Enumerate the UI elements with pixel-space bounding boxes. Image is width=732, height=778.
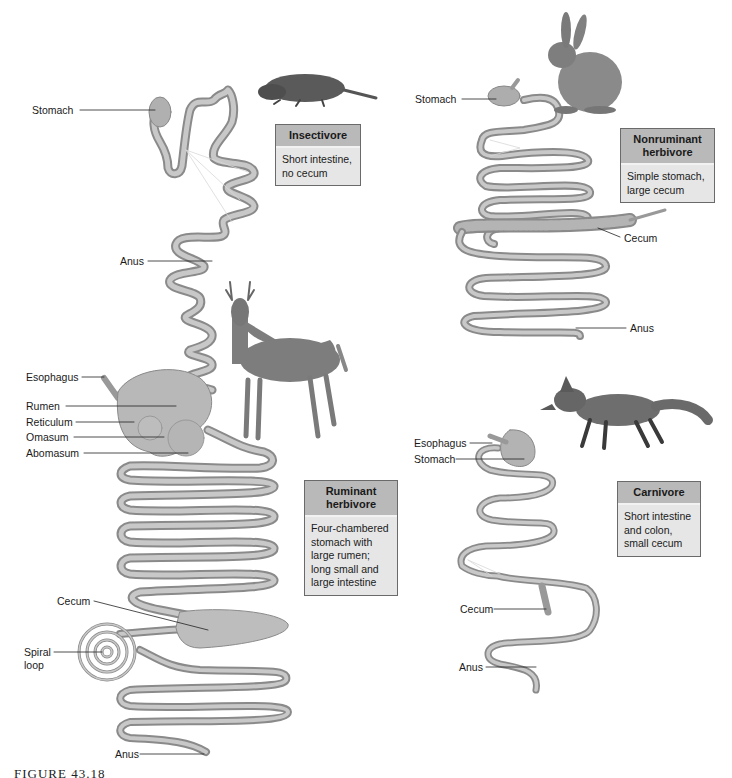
nonruminant-gut [459,80,665,336]
ruminant-omasum-label: Omasum [26,431,69,444]
ruminant-title: Ruminant herbivore [305,481,397,517]
ruminant-spiral-loop-label: Spiral loop [24,646,51,672]
carnivore-title: Carnivore [618,482,700,505]
insectivore-title: Insectivore [276,125,360,148]
insectivore-stomach-label: Stomach [32,104,73,117]
nonruminant-title: Nonruminant herbivore [621,129,714,165]
mole-illustration [258,74,376,106]
ruminant-reticulum-label: Reticulum [26,416,73,429]
ruminant-info-box: Ruminant herbivore Four-chambered stomac… [304,480,398,596]
ruminant-rumen-label: Rumen [26,400,60,413]
carnivore-gut [461,430,596,690]
carnivore-cecum-label: Cecum [460,603,493,616]
nonruminant-anus-label: Anus [630,322,654,335]
fox-illustration [540,376,708,448]
digestive-tract-illustrations [0,0,732,778]
nonruminant-stomach-label: Stomach [415,93,456,106]
insectivore-description: Short intestine, no cecum [276,148,360,185]
nonruminant-info-box: Nonruminant herbivore Simple stomach, la… [620,128,715,203]
ruminant-anus-label: Anus [115,748,139,761]
ruminant-description: Four-chambered stomach with large rumen;… [305,517,397,595]
nonruminant-description: Simple stomach, large cecum [621,165,714,202]
nonruminant-cecum-label: Cecum [624,232,657,245]
insectivore-info-box: Insectivore Short intestine, no cecum [275,124,361,186]
figure-caption: FIGURE 43.18 [14,766,105,778]
carnivore-stomach-label: Stomach [414,453,455,466]
ruminant-esophagus-label: Esophagus [26,371,79,384]
rabbit-illustration [548,12,622,114]
deer-illustration [226,282,346,438]
carnivore-anus-label: Anus [459,661,483,674]
carnivore-esophagus-label: Esophagus [414,437,467,450]
carnivore-description: Short intestine and colon, small cecum [618,505,700,556]
ruminant-cecum-label: Cecum [57,595,90,608]
ruminant-abomasum-label: Abomasum [26,447,79,460]
insectivore-anus-label: Anus [120,255,144,268]
carnivore-info-box: Carnivore Short intestine and colon, sma… [617,481,701,557]
